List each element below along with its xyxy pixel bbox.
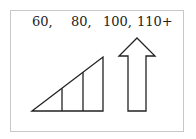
up-arrow-icon [119, 38, 155, 111]
diagram-shapes [0, 0, 196, 139]
divided-triangle-icon [32, 57, 103, 111]
